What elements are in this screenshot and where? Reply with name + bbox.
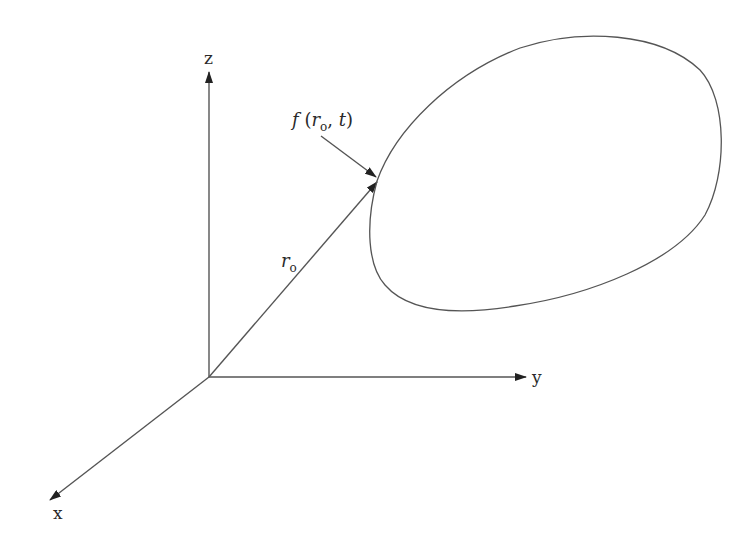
position-vector	[209, 182, 377, 377]
z-axis-label: z	[204, 48, 213, 68]
pointer-arrow	[321, 136, 376, 177]
closed-curve	[370, 36, 722, 311]
vector-label: ro	[281, 250, 297, 275]
point-label: f (ro, t)	[290, 109, 353, 134]
coordinate-diagram: z y x ro f (ro, t)	[0, 0, 753, 545]
x-axis	[50, 377, 209, 500]
x-axis-label: x	[53, 503, 63, 523]
y-axis-label: y	[531, 367, 542, 387]
